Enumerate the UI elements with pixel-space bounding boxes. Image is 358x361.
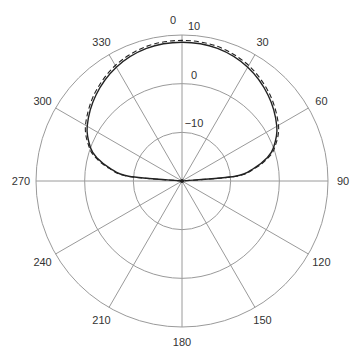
grid-spoke (109, 181, 182, 307)
angle-tick-label: 270 (12, 175, 30, 187)
angle-tick-label: 30 (256, 36, 268, 48)
grid-spoke (182, 181, 308, 254)
grid-spoke (182, 181, 255, 307)
angle-tick-label: 0 (170, 14, 176, 26)
angle-tick-label: 210 (92, 314, 110, 326)
radial-tick-label: −10 (185, 117, 204, 129)
radial-tick-label: 10 (188, 20, 200, 32)
angle-tick-label: 240 (33, 256, 51, 268)
grid-spoke (56, 181, 182, 254)
angle-tick-label: 120 (312, 256, 330, 268)
angle-tick-label: 150 (253, 314, 271, 326)
grid-spoke (56, 108, 182, 181)
polar-chart: 0306090120150180210240270300330 −10010 (0, 0, 358, 361)
angle-tick-label: 180 (173, 336, 191, 348)
angle-tick-label: 90 (337, 175, 349, 187)
center-dot (180, 179, 184, 183)
grid-spoke (109, 55, 182, 181)
angle-tick-label: 300 (33, 95, 51, 107)
angle-tick-label: 60 (315, 95, 327, 107)
angle-tick-label: 330 (92, 36, 110, 48)
radial-tick-label: 0 (191, 69, 197, 81)
